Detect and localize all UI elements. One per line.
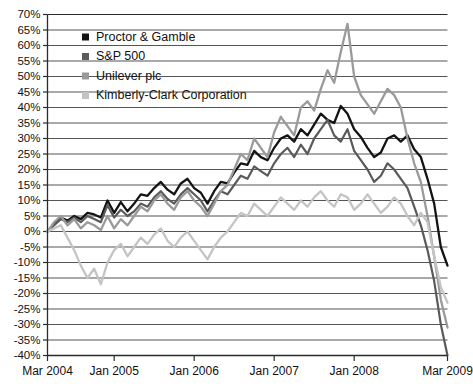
chart-background <box>0 0 473 387</box>
legend-marker <box>82 34 89 41</box>
y-tick-label: 60% <box>17 39 40 51</box>
x-tick-label: Jan 2005 <box>89 364 139 378</box>
y-tick-label: 25% <box>17 148 40 160</box>
y-tick-label: 45% <box>17 86 40 98</box>
y-tick-label: -15% <box>14 272 41 284</box>
legend-label: Proctor & Gamble <box>96 30 195 44</box>
y-tick-label: -30% <box>14 318 41 330</box>
y-tick-label: 15% <box>17 179 40 191</box>
y-tick-label: -35% <box>14 334 41 346</box>
y-tick-label: 40% <box>17 101 40 113</box>
y-tick-label: 50% <box>17 70 40 82</box>
legend-marker <box>82 53 89 60</box>
y-tick-label: 70% <box>17 8 40 20</box>
legend-marker <box>82 92 89 99</box>
x-tick-label: Jan 2008 <box>329 364 379 378</box>
y-tick-label: 55% <box>17 55 40 67</box>
x-tick-label: Jan 2007 <box>249 364 299 378</box>
y-tick-label: -40% <box>14 349 41 361</box>
chart-canvas: 70%65%60%55%50%45%40%35%30%25%20%15%10%5… <box>0 0 473 387</box>
y-tick-label: -10% <box>14 256 41 268</box>
x-tick-label: Mar 2004 <box>22 364 73 378</box>
x-tick-label: Mar 2009 <box>422 364 473 378</box>
y-tick-label: 10% <box>17 194 40 206</box>
y-tick-label: 5% <box>24 210 41 222</box>
legend-label: S&P 500 <box>96 49 145 63</box>
x-tick-label: Jan 2006 <box>169 364 219 378</box>
y-tick-label: -25% <box>14 303 41 315</box>
y-tick-label: 65% <box>17 24 40 36</box>
legend-marker <box>82 73 89 80</box>
y-tick-label: 0% <box>24 225 41 237</box>
y-tick-label: 20% <box>17 163 40 175</box>
y-tick-label: 30% <box>17 132 40 144</box>
y-axis-labels: 70%65%60%55%50%45%40%35%30%25%20%15%10%5… <box>14 8 41 361</box>
legend-label: Unilever plc <box>96 69 161 83</box>
y-tick-label: -20% <box>14 287 41 299</box>
y-tick-label: 35% <box>17 117 40 129</box>
legend-label: Kimberly-Clark Corporation <box>96 88 247 102</box>
y-tick-label: -5% <box>20 241 40 253</box>
line-chart: 70%65%60%55%50%45%40%35%30%25%20%15%10%5… <box>0 0 473 387</box>
